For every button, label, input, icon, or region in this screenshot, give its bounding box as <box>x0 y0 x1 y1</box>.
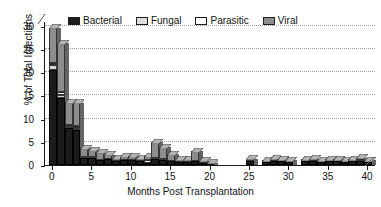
bar-segment-bacterial[interactable] <box>262 162 270 165</box>
y-tick-label: 15 <box>14 91 34 101</box>
bar-segment-parasitic[interactable] <box>57 92 65 95</box>
legend-item-viral[interactable]: Viral <box>263 15 298 26</box>
bar-stack[interactable] <box>262 160 270 165</box>
bar-segment-bacterial[interactable] <box>144 163 152 165</box>
bar-stack[interactable] <box>151 142 159 165</box>
bar-stack[interactable] <box>277 160 285 165</box>
legend-swatch-fungal-icon <box>136 17 148 25</box>
bar-stack[interactable] <box>270 159 278 165</box>
bar-stack[interactable] <box>348 160 356 165</box>
x-tick-label: 0 <box>37 171 67 182</box>
bar-stack[interactable] <box>112 159 120 166</box>
bar-segment-fungal[interactable] <box>49 65 57 70</box>
bar-segment-bacterial[interactable] <box>49 70 57 165</box>
bar-segment-viral[interactable] <box>49 28 57 63</box>
bar-top-face <box>246 155 254 159</box>
bar-stack[interactable] <box>317 161 325 165</box>
bar-top-face <box>325 156 333 160</box>
bar-segment-bacterial[interactable] <box>199 163 207 165</box>
legend-item-parasitic[interactable]: Parasitic <box>195 15 248 26</box>
bar-stack[interactable] <box>120 157 128 165</box>
bar-segment-bacterial[interactable] <box>301 161 309 165</box>
bar-segment-bacterial[interactable] <box>65 128 73 165</box>
bar-stack[interactable] <box>191 151 199 165</box>
bar-segment-fungal[interactable] <box>73 128 81 130</box>
bar-top-face <box>144 153 152 157</box>
bar-segment-bacterial[interactable] <box>128 160 136 165</box>
bar-segment-bacterial[interactable] <box>183 162 191 165</box>
legend-item-fungal[interactable]: Fungal <box>136 15 182 26</box>
bar-segment-bacterial[interactable] <box>175 162 183 165</box>
bar-segment-fungal[interactable] <box>65 126 73 128</box>
bar-segment-bacterial[interactable] <box>112 161 120 165</box>
bar-top-face <box>159 144 167 148</box>
legend-swatch-bacterial-icon <box>68 17 80 25</box>
bar-stack[interactable] <box>246 159 254 165</box>
bar-segment-viral[interactable] <box>57 43 65 92</box>
bar-segment-viral[interactable] <box>73 103 81 126</box>
bar-stack[interactable] <box>128 156 136 165</box>
bar-segment-bacterial[interactable] <box>341 162 349 165</box>
bar-segment-bacterial[interactable] <box>270 161 278 165</box>
bar-segment-bacterial[interactable] <box>309 161 317 165</box>
bar-segment-fungal[interactable] <box>57 95 65 98</box>
bar-segment-bacterial[interactable] <box>151 159 159 165</box>
bar-segment-bacterial[interactable] <box>136 161 144 165</box>
bar-segment-parasitic[interactable] <box>73 126 81 128</box>
bar-stack[interactable] <box>144 156 152 165</box>
bar-segment-viral[interactable] <box>191 151 199 161</box>
bar-segment-parasitic[interactable] <box>49 63 57 65</box>
bar-segment-bacterial[interactable] <box>167 161 175 165</box>
bar-segment-bacterial[interactable] <box>348 161 356 165</box>
bar-stack[interactable] <box>104 155 112 165</box>
bar-segment-bacterial[interactable] <box>191 161 199 165</box>
bar-segment-bacterial[interactable] <box>325 161 333 165</box>
bar-segment-viral[interactable] <box>151 142 159 157</box>
bar-segment-bacterial[interactable] <box>73 130 81 165</box>
bar-stack[interactable] <box>65 102 73 165</box>
infection-distribution-chart: % of Total Infections 051015202530 05101… <box>0 0 381 207</box>
bar-stack[interactable] <box>309 159 317 165</box>
bar-stack[interactable] <box>301 160 309 165</box>
bar-top-face <box>96 149 104 153</box>
bar-stack[interactable] <box>199 161 207 165</box>
legend-item-bacterial[interactable]: Bacterial <box>68 15 122 26</box>
bar-stack[interactable] <box>175 160 183 165</box>
bar-segment-bacterial[interactable] <box>285 162 293 165</box>
bar-stack[interactable] <box>96 153 104 165</box>
bar-stack[interactable] <box>356 158 364 165</box>
bar-stack[interactable] <box>167 154 175 165</box>
bar-segment-bacterial[interactable] <box>317 162 325 165</box>
bar-top-face <box>57 40 65 44</box>
bar-stack[interactable] <box>49 28 57 165</box>
bar-segment-bacterial[interactable] <box>120 160 128 165</box>
bar-segment-bacterial[interactable] <box>159 160 167 165</box>
bar-segment-viral[interactable] <box>65 102 73 124</box>
bar-stack[interactable] <box>207 163 215 165</box>
bar-stack[interactable] <box>159 147 167 165</box>
bar-stack[interactable] <box>88 150 96 165</box>
bar-stack[interactable] <box>80 148 88 165</box>
bar-top-face <box>301 156 309 160</box>
bar-segment-bacterial[interactable] <box>80 158 88 165</box>
bar-top-face <box>317 157 325 161</box>
bar-segment-bacterial[interactable] <box>57 98 65 165</box>
bar-segment-bacterial[interactable] <box>333 161 341 165</box>
bar-stack[interactable] <box>341 161 349 165</box>
bar-stack[interactable] <box>285 160 293 165</box>
bar-stack[interactable] <box>333 159 341 165</box>
bar-stack[interactable] <box>136 159 144 166</box>
bar-stack[interactable] <box>73 103 81 165</box>
bar-segment-bacterial[interactable] <box>96 160 104 165</box>
bar-segment-bacterial[interactable] <box>356 161 364 165</box>
bar-stack[interactable] <box>57 43 65 165</box>
x-axis-ticks: 0510152025303540 <box>38 166 375 186</box>
bar-segment-bacterial[interactable] <box>277 161 285 165</box>
bar-segment-bacterial[interactable] <box>88 158 96 165</box>
bar-stack[interactable] <box>325 160 333 165</box>
bar-stack[interactable] <box>183 160 191 165</box>
bar-segment-parasitic[interactable] <box>144 160 152 163</box>
bar-segment-bacterial[interactable] <box>246 161 254 165</box>
bar-segment-viral[interactable] <box>159 147 167 159</box>
bar-segment-bacterial[interactable] <box>104 159 112 165</box>
